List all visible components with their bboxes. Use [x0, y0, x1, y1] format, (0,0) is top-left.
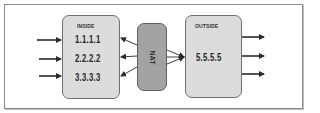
inside-address-3: 3.3.3.3: [75, 72, 100, 83]
inside-address-2: 2.2.2.2: [75, 53, 100, 64]
outside-box: OUTSIDE 5.5.5.5: [185, 15, 242, 98]
inside-title: INSIDE: [77, 23, 95, 29]
nat-box: NAT: [137, 23, 167, 91]
outside-address: 5.5.5.5: [196, 52, 221, 63]
nat-label: NAT: [149, 51, 156, 65]
outside-title: OUTSIDE: [195, 23, 218, 29]
inside-box: INSIDE 1.1.1.1 2.2.2.2 3.3.3.3: [62, 15, 120, 99]
inside-address-1: 1.1.1.1: [75, 34, 100, 45]
